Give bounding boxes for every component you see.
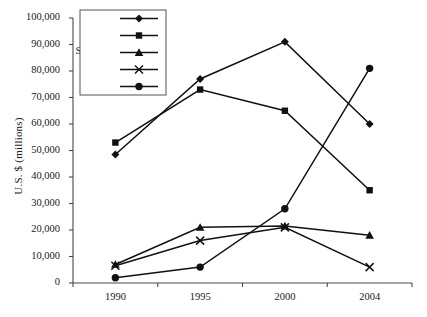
marker-cross: [366, 263, 374, 271]
marker-square: [366, 187, 372, 193]
marker-circle: [112, 274, 119, 281]
series-line: [115, 90, 369, 191]
series-line: [115, 226, 369, 264]
marker-circle: [366, 65, 373, 72]
marker-circle: [135, 83, 142, 90]
plot-area: [0, 0, 427, 317]
marker-square: [136, 32, 142, 38]
marker-square: [112, 139, 118, 145]
marker-square: [197, 86, 203, 92]
series-singapore: [111, 222, 374, 268]
marker-circle: [281, 205, 288, 212]
legend-box: [80, 10, 166, 95]
series-taiwan: [111, 223, 373, 271]
marker-circle: [196, 263, 203, 270]
series-japan: [112, 86, 373, 193]
line-chart: U.S. $ (millions) 010,00020,00030,00040,…: [0, 0, 427, 317]
marker-square: [282, 108, 288, 114]
